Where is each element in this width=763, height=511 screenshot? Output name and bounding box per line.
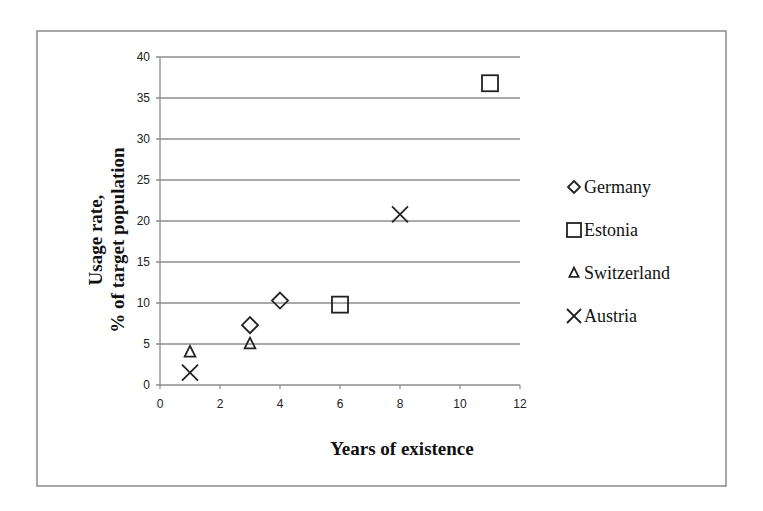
legend-label: Estonia xyxy=(584,220,638,240)
legend-x-icon xyxy=(567,309,581,323)
square-marker-icon xyxy=(482,75,498,91)
y-tick-label: 35 xyxy=(137,91,151,105)
legend-triangle-icon xyxy=(569,268,578,277)
triangle-marker-icon xyxy=(185,346,196,357)
x-tick-label: 2 xyxy=(217,397,224,411)
y-tick-label: 30 xyxy=(137,132,151,146)
gridlines xyxy=(156,57,520,385)
legend-label: Germany xyxy=(584,177,651,197)
x-tick-label: 12 xyxy=(513,397,527,411)
legend-label: Switzerland xyxy=(584,263,670,283)
y-axis-ticks: 0510152025303540 xyxy=(137,50,151,392)
x-axis-title: Years of existence xyxy=(330,438,474,459)
x-marker-icon xyxy=(182,365,198,381)
x-tick-label: 8 xyxy=(397,397,404,411)
x-tick-label: 10 xyxy=(453,397,467,411)
x-tick-label: 0 xyxy=(157,397,164,411)
legend-item-austria: Austria xyxy=(567,306,637,326)
y-tick-label: 15 xyxy=(137,255,151,269)
series-switzerland xyxy=(185,338,256,357)
data-points xyxy=(182,75,498,380)
y-tick-label: 10 xyxy=(137,296,151,310)
y-tick-label: 20 xyxy=(137,214,151,228)
y-tick-label: 40 xyxy=(137,50,151,64)
y-axis-title: Usage rate, % of target population xyxy=(85,147,128,333)
x-tick-label: 4 xyxy=(277,397,284,411)
scatter-chart: 0510152025303540 024681012 Years of exis… xyxy=(0,0,763,511)
square-marker-icon xyxy=(332,297,348,313)
series-estonia xyxy=(332,75,498,312)
y-tick-label: 25 xyxy=(137,173,151,187)
y-tick-label: 0 xyxy=(143,378,150,392)
legend-item-estonia: Estonia xyxy=(567,220,638,240)
x-tick-label: 6 xyxy=(337,397,344,411)
legend-square-icon xyxy=(567,223,581,237)
legend: GermanyEstoniaSwitzerlandAustria xyxy=(567,177,670,326)
diamond-marker-icon xyxy=(242,317,258,333)
legend-item-switzerland: Switzerland xyxy=(569,263,670,283)
y-axis-title-line2: % of target population xyxy=(107,147,128,333)
legend-label: Austria xyxy=(584,306,637,326)
series-austria xyxy=(182,206,408,380)
axes xyxy=(160,57,520,389)
legend-item-germany: Germany xyxy=(568,177,651,197)
y-tick-label: 5 xyxy=(143,337,150,351)
y-axis-title-line1: Usage rate, xyxy=(85,194,106,285)
legend-diamond-icon xyxy=(568,181,580,193)
x-axis-ticks: 024681012 xyxy=(157,397,527,411)
series-germany xyxy=(242,293,288,334)
x-marker-icon xyxy=(392,206,408,222)
triangle-marker-icon xyxy=(245,338,256,349)
diamond-marker-icon xyxy=(272,293,288,309)
